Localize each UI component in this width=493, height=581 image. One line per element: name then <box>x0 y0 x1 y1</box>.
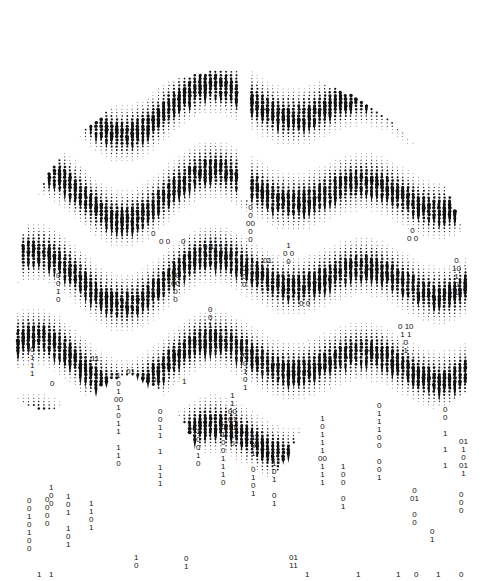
binary-column: 0 <box>414 571 418 579</box>
binary-column: 0 0 1 1 1 1 1 1 <box>158 408 162 488</box>
binary-column: 0 1 0 0 1 1 1 0 <box>221 423 225 487</box>
binary-digit-cluster: 0 0 0 <box>407 227 418 243</box>
binary-column: 1 0 0 0 1 <box>341 463 345 511</box>
binary-column: 0 1 1 1 0 0 0 0 1 <box>377 402 381 482</box>
binary-column: 1 <box>396 571 400 579</box>
binary-digit-cluster: 01 <box>152 376 161 384</box>
binary-column: 1 1 0 1 <box>89 500 93 532</box>
binary-column: 0 01 0 0 <box>410 487 419 527</box>
binary-column: 1 1 00 01 11 1 0 <box>228 392 237 448</box>
binary-column: 1 <box>356 571 360 579</box>
binary-column: 0 0 0 0 <box>45 496 49 528</box>
binary-column: 1 0 1 1 1 00 1 1 1 <box>318 415 327 487</box>
binary-column: 1 0 1 0 1 0 1 <box>251 434 255 498</box>
binary-column: 1 0 1 1 0 1 <box>66 493 70 549</box>
binary-column: 1 0 1 00 1 0 1 1 1 1 0 <box>114 372 123 468</box>
binary-column: 1 <box>37 571 41 579</box>
binary-digit-cluster: 0 <box>151 230 155 238</box>
binary-column: 1 <box>436 571 440 579</box>
binary-digit-cluster: 0 0 <box>159 238 170 246</box>
binary-digit-cluster: 01 <box>263 257 272 265</box>
binary-digit-cluster: 1 <box>182 378 186 386</box>
binary-digit-cluster: 0 0 00 0 0 <box>246 204 255 244</box>
binary-digit-cluster: 0 <box>181 238 185 246</box>
binary-column: 1 0 1 0 1 <box>272 460 276 508</box>
binary-digit-cluster: 0 0 0 <box>242 265 246 289</box>
binary-column: 1 0 0 1 0 <box>196 428 200 468</box>
binary-column: 0 <box>459 571 463 579</box>
binary-column: 0 0 1 0 1 0 0 <box>27 497 31 553</box>
binary-digit-cluster: 0 0 1 0 <box>56 272 60 304</box>
binary-digit-cluster: 0 1 1 1 <box>30 346 34 378</box>
binary-digit-cluster: 0 0 <box>299 300 310 308</box>
binary-digit-cluster: 0 10 1 1 0 1 <box>398 323 414 355</box>
binary-column: 01 11 <box>289 554 298 570</box>
binary-column: 0 1 <box>184 555 188 571</box>
binary-column: 1 0 <box>134 554 138 570</box>
binary-digit-cluster: 11 <box>91 355 99 363</box>
binary-digit-cluster: 01 <box>126 368 135 376</box>
binary-column: 1 0 0 <box>49 484 53 508</box>
binary-column: 0 0 0 <box>459 491 463 515</box>
binary-column: 1 <box>49 571 53 579</box>
binary-column: 0 1 <box>430 528 434 544</box>
binary-column: 01 1 0 01 1 <box>459 438 468 478</box>
binary-digit-cluster: 0 0 1 1 <box>208 306 212 338</box>
binary-digit-cluster: 1 0 0 0 <box>283 242 294 266</box>
binary-digit-cluster: 0 <box>50 380 54 388</box>
binary-column: 0 0 1 1 1 <box>443 406 447 470</box>
binary-column: 1 <box>305 571 309 579</box>
binary-digit-cluster: 0 1 <box>203 243 214 251</box>
binary-digit-cluster: 10 00 0 0 <box>171 272 180 304</box>
binary-digit-cluster: 0 10 1 0 1 <box>452 257 461 297</box>
brain-illustration <box>0 0 493 581</box>
binary-digit-cluster: 0 0 1 0 1 <box>243 352 247 392</box>
